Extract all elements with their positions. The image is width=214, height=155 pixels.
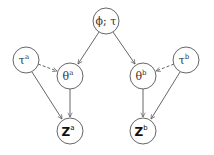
node-tau-a: τa <box>13 47 39 73</box>
node-superscript: b <box>142 69 147 77</box>
node-superscript: a <box>70 124 74 132</box>
node-z-a: Za <box>57 118 83 144</box>
node-superscript: a <box>69 69 73 77</box>
node-superscript: b <box>143 124 148 132</box>
node-superscript: b <box>185 53 190 61</box>
node-tau-b: τb <box>173 47 199 73</box>
graphical-model-diagram: ϕ; τ τa θa θb τb Za Zb <box>0 0 214 155</box>
node-theta-a: θa <box>57 63 83 89</box>
node-theta-b: θb <box>130 63 156 89</box>
node-label: ϕ; τ <box>96 15 117 28</box>
edge-root-theta-a <box>78 32 99 64</box>
node-label: Z <box>62 125 71 139</box>
node-superscript: a <box>25 53 29 61</box>
node-phi-tau: ϕ; τ <box>93 8 119 34</box>
edge-tau-a-theta-a <box>38 64 57 71</box>
node-label: Z <box>134 125 143 139</box>
edge-root-theta-b <box>113 32 135 64</box>
edge-tau-b-theta-b <box>156 64 174 71</box>
node-z-b: Zb <box>130 118 156 144</box>
